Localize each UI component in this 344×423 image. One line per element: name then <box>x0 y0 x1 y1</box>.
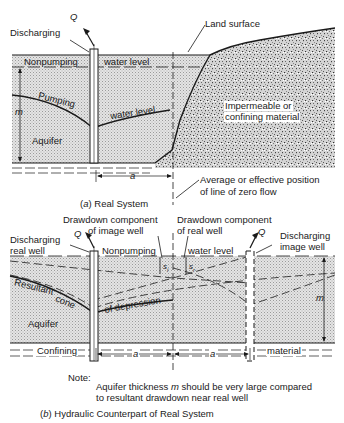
zero-flow-label-line2: of line of zero flow <box>200 187 277 197</box>
land-surface-label: Land surface <box>205 19 260 29</box>
s-real-label: sr <box>189 262 195 275</box>
note-line2: to resultant drawdown near real well <box>96 393 248 403</box>
distance-a-left-label: a <box>132 349 139 359</box>
drawdown-real-label-line2: of real well <box>177 226 222 236</box>
discharge-arrow-icon <box>83 28 90 35</box>
aquifer-label-b: Aquifer <box>28 319 58 329</box>
discharging-image-label-line2: image well <box>280 242 325 252</box>
discharging-image-label-line1: Discharging <box>280 231 330 241</box>
confining-label: Confining <box>36 346 78 356</box>
s-image-label: si <box>163 262 168 275</box>
material-label: material <box>266 346 302 356</box>
static-water-level-label: water level <box>104 57 149 67</box>
impermeable-label-line1: Impermeable or <box>224 101 293 111</box>
image-well <box>246 251 254 361</box>
nonpumping-label: Nonpumping <box>24 57 78 67</box>
discharging-real-label-line1: Discharging <box>10 235 60 245</box>
caption-a: (a) Real System <box>80 199 148 209</box>
drawdown-image-label-line1: Drawdown component <box>63 215 158 225</box>
water-level-label-b: water level <box>188 246 233 256</box>
aquifer-label: Aquifer <box>32 136 62 146</box>
caption-b: (b) Hydraulic Counterpart of Real System <box>40 409 214 419</box>
discharge-q-real-label: Q <box>74 229 81 239</box>
discharge-q-image-label: Q <box>258 227 265 237</box>
discharging-real-label-line2: real well <box>10 246 45 256</box>
thickness-m-label-b: m <box>316 293 324 303</box>
discharge-q-label: Q <box>70 12 77 22</box>
nonpumping-label-b: Nonpumping <box>102 246 156 256</box>
zero-flow-label-line1: Average or effective position <box>200 175 320 185</box>
note-line1: Aquifer thickness m should be very large… <box>96 382 312 392</box>
impermeable-label-line2: confining material <box>224 112 300 122</box>
note-title: Note: <box>68 373 91 383</box>
drawdown-real-label-line1: Drawdown component <box>177 215 272 225</box>
distance-a-right-label: a <box>209 349 216 359</box>
thickness-m-label: m <box>15 107 23 117</box>
distance-a-label: a <box>130 171 135 181</box>
discharging-label: Discharging <box>10 28 60 38</box>
drawdown-image-label-line2: of image well <box>88 226 143 236</box>
